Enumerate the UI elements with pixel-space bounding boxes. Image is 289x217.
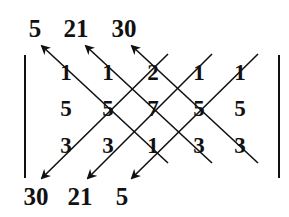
bottom-sum-2: 21 bbox=[68, 184, 93, 209]
cell-r1-c2: 1 bbox=[102, 61, 114, 84]
cell-r2-c4: 5 bbox=[193, 97, 205, 120]
top-sum-2: 21 bbox=[64, 16, 89, 41]
cell-r2-c5: 5 bbox=[234, 97, 246, 120]
cell-r1-c3: 2 bbox=[147, 61, 159, 84]
cell-r1-c5: 1 bbox=[234, 61, 246, 84]
cell-r2-c1: 5 bbox=[60, 97, 72, 120]
cell-r1-c4: 1 bbox=[193, 61, 205, 84]
determinant-diagram: 5 21 30 1 1 2 1 1 5 5 7 5 5 3 3 1 3 3 30… bbox=[0, 0, 289, 217]
cell-r3-c3: 1 bbox=[147, 134, 159, 157]
cell-r3-c1: 3 bbox=[60, 134, 72, 157]
top-sum-3: 30 bbox=[112, 16, 137, 41]
bottom-sum-3: 5 bbox=[116, 184, 129, 209]
cell-r3-c5: 3 bbox=[234, 134, 246, 157]
top-sum-1: 5 bbox=[29, 16, 42, 41]
cell-r1-c1: 1 bbox=[60, 61, 72, 84]
cell-r3-c2: 3 bbox=[102, 134, 114, 157]
cell-r3-c4: 3 bbox=[193, 134, 205, 157]
bottom-sum-1: 30 bbox=[24, 184, 49, 209]
cell-r2-c2: 5 bbox=[102, 97, 114, 120]
cell-r2-c3: 7 bbox=[147, 97, 159, 120]
